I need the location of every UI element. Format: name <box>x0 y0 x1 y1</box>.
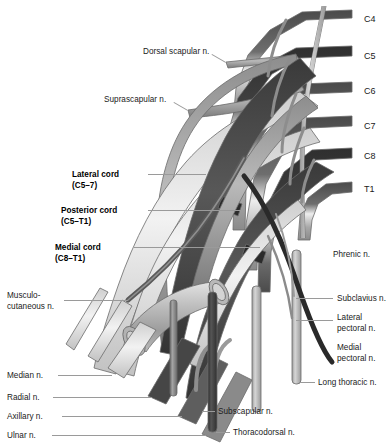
root-label-c5: C5 <box>364 51 376 62</box>
label-ulnar: Ulnar n. <box>7 431 36 442</box>
label-lateral_pectoral: Lateral pectoral n. <box>337 313 375 334</box>
leader-ulnar <box>52 435 206 436</box>
leader-posterior-cord <box>148 210 242 211</box>
label-thoracodorsal: Thoracodorsal n. <box>233 428 295 439</box>
leader-medial-cord <box>134 247 260 248</box>
leader-axillary <box>62 416 182 417</box>
label-medial_pectoral: Medial pectoral n. <box>337 343 375 364</box>
root-label-c4: C4 <box>364 14 376 25</box>
label-musculocutaneous: Musculo- cutaneous n. <box>7 291 54 312</box>
leader-long-thoracic <box>300 382 315 383</box>
leader-thoracodorsal <box>216 432 230 433</box>
leader-subclavius <box>296 298 333 299</box>
root-label-c7: C7 <box>364 121 376 132</box>
root-label-c6: C6 <box>364 86 376 97</box>
label-lateral_cord: Lateral cord (C5–7) <box>72 170 119 191</box>
root-label-t1: T1 <box>364 184 375 195</box>
leader-lateral-cord <box>148 174 206 175</box>
lower-descending-branch <box>170 300 177 396</box>
label-medial_cord: Medial cord (C8–T1) <box>55 243 101 264</box>
root-label-c8: C8 <box>364 151 376 162</box>
label-posterior_cord: Posterior cord (C5–T1) <box>61 206 117 227</box>
label-axillary: Axillary n. <box>7 412 43 423</box>
label-subclavius: Subclavius n. <box>337 294 386 305</box>
leader-lateral-pectoral <box>296 320 333 321</box>
label-dorsal_scapular: Dorsal scapular n. <box>143 47 209 58</box>
label-median: Median n. <box>7 371 43 382</box>
label-subscapular: Subscapular n. <box>218 407 273 418</box>
leader-radial <box>53 397 152 398</box>
leader-musculocutaneous <box>64 300 128 301</box>
label-suprascapular: Suprascapular n. <box>104 95 166 106</box>
leader-subscapular <box>202 411 215 412</box>
brachial-plexus-figure: Dorsal scapular n.Suprascapular n.Latera… <box>0 0 390 444</box>
leader-median <box>58 375 112 376</box>
label-radial: Radial n. <box>7 393 40 404</box>
label-phrenic: Phrenic n. <box>333 250 370 261</box>
subscapular-nerve <box>252 286 261 412</box>
label-long_thoracic: Long thoracic n. <box>318 378 377 389</box>
